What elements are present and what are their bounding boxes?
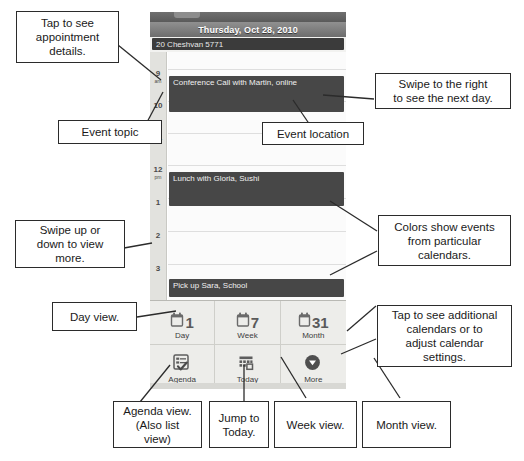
callout-agenda-view: Agenda view. (Also list view) xyxy=(113,401,202,448)
callout-jump-to-today: Jump to Today. xyxy=(209,401,269,448)
hour-label-9: 9 am xyxy=(150,70,166,84)
tool-day-number: 1 xyxy=(185,316,193,329)
tool-day-view[interactable]: 1 Day xyxy=(150,301,215,345)
agenda-list-icon xyxy=(172,350,192,373)
day-view-grid[interactable]: 9 am 10 11 12 pm 1 2 3 xyxy=(150,52,346,300)
event-title: Conference Call with Martin, online xyxy=(173,78,297,87)
hour-label-3: 3 xyxy=(150,265,166,273)
callout-colors-show-events: Colors show events from particular calen… xyxy=(378,215,511,266)
chevron-down-circle-icon xyxy=(303,350,323,373)
callout-month-view: Month view. xyxy=(362,401,451,448)
tool-week-view[interactable]: 7 Week xyxy=(215,301,280,345)
callout-swipe-right-next-day: Swipe to the right to see the next day. xyxy=(375,73,511,109)
callout-swipe-up-down: Swipe up or down to view more. xyxy=(15,220,125,268)
calendar-date-label: Thursday, Oct 28, 2010 xyxy=(198,25,298,35)
phone-status-bar xyxy=(150,12,346,22)
view-switcher-toolbar[interactable]: 1 Day 7 Week xyxy=(150,300,346,389)
hour-number: 10 xyxy=(154,101,163,110)
event-pick-up-sara[interactable]: Pick up Sara, School xyxy=(169,279,344,297)
tool-month-view[interactable]: 31 Month xyxy=(281,301,346,345)
hour-label-10: 10 xyxy=(150,102,166,110)
calendar-31-icon: 31 xyxy=(298,306,329,329)
callout-week-view: Week view. xyxy=(274,401,357,448)
callout-event-topic: Event topic xyxy=(58,120,162,144)
callout-tap-additional-calendars: Tap to see additional calendars or to ad… xyxy=(377,305,512,367)
hour-number: 9 xyxy=(156,69,160,78)
hour-meridiem: am xyxy=(150,78,166,84)
callout-tap-appointment-details: Tap to see appointment details. xyxy=(16,11,119,63)
callout-event-location: Event location xyxy=(262,122,364,145)
tool-month-number: 31 xyxy=(312,316,329,329)
event-title: Lunch with Gloria, Sushi xyxy=(173,174,259,183)
callout-day-view: Day view. xyxy=(52,302,137,331)
calendar-1-icon: 1 xyxy=(170,306,193,329)
event-title: Pick up Sara, School xyxy=(173,281,247,290)
tool-label-month: Month xyxy=(302,331,324,340)
hour-label-1: 1 xyxy=(150,199,166,207)
tool-label-day: Day xyxy=(175,331,189,340)
phone-screenshot: Thursday, Oct 28, 2010 20 Cheshvan 5771 … xyxy=(150,12,346,389)
hour-number: 1 xyxy=(156,198,160,207)
event-conference-call[interactable]: Conference Call with Martin, online xyxy=(169,76,344,112)
hour-label-2: 2 xyxy=(150,232,166,240)
hour-number: 12 xyxy=(154,165,163,174)
tool-week-number: 7 xyxy=(251,316,259,329)
phone-notch xyxy=(174,12,200,18)
hour-label-12: 12 pm xyxy=(150,166,166,180)
today-grid-icon xyxy=(237,350,257,373)
hour-number: 3 xyxy=(156,264,160,273)
calendar-date-titlebar: Thursday, Oct 28, 2010 xyxy=(150,22,346,37)
calendar-7-icon: 7 xyxy=(236,306,259,329)
hebrew-date-bar[interactable]: 20 Cheshvan 5771 xyxy=(152,38,344,50)
hour-number: 2 xyxy=(156,231,160,240)
hebrew-date-label: 20 Cheshvan 5771 xyxy=(156,40,223,49)
hour-meridiem: pm xyxy=(150,174,166,180)
tool-label-week: Week xyxy=(237,331,257,340)
phone-bottom-edge xyxy=(150,383,346,389)
event-lunch-gloria[interactable]: Lunch with Gloria, Sushi xyxy=(169,172,344,206)
